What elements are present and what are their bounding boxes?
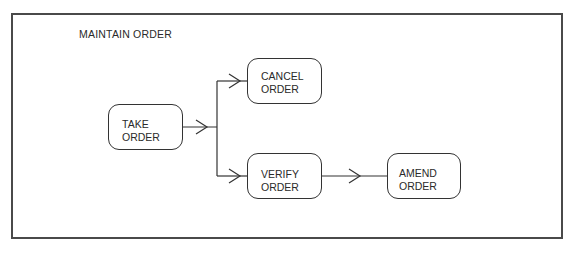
node-label-line2: ORDER	[261, 181, 299, 194]
node-take-order[interactable]: TAKE ORDER	[108, 104, 183, 150]
node-amend-order[interactable]: AMEND ORDER	[387, 153, 461, 199]
node-label: CANCEL ORDER	[261, 70, 304, 96]
node-label-line2: ORDER	[122, 131, 160, 144]
node-label: AMEND ORDER	[399, 167, 437, 193]
node-label-line2: ORDER	[399, 180, 437, 193]
node-verify-order[interactable]: VERIFY ORDER	[247, 153, 322, 199]
node-label-line1: AMEND	[399, 167, 437, 180]
node-label-line1: CANCEL	[261, 70, 304, 83]
node-label: TAKE ORDER	[122, 118, 160, 144]
edges	[0, 0, 576, 256]
node-label: VERIFY ORDER	[261, 168, 299, 194]
node-label-line1: TAKE	[122, 118, 160, 131]
node-label-line2: ORDER	[261, 83, 304, 96]
node-cancel-order[interactable]: CANCEL ORDER	[247, 58, 322, 104]
node-label-line1: VERIFY	[261, 168, 299, 181]
